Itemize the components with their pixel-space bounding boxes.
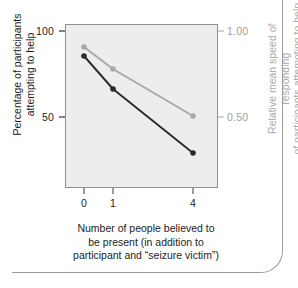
series-gray-line (84, 47, 193, 116)
series-dark-point-0 (81, 53, 87, 59)
x-axis-tick-label-4: 4 (178, 197, 208, 209)
x-axis-title: Number of people believed to be present … (36, 222, 256, 263)
series-gray-point-1 (110, 66, 115, 71)
series-dark-line (84, 56, 193, 153)
y-axis-left-title-line1: Percentage of participants (11, 0, 24, 150)
y-axis-right-title-line1: Relative mean speed of responding (266, 0, 291, 159)
y-axis-left-title: Percentage of participants attempting to… (11, 0, 36, 150)
y-axis-right-tick-label-50: 0.50 (227, 111, 267, 123)
y-axis-right-title: Relative mean speed of responding of par… (266, 0, 298, 159)
x-axis-title-line3: participant and “seizure victim”) (36, 249, 256, 263)
y-axis-right-tick-label-100: 1.00 (227, 25, 267, 37)
series-dark-point-1 (110, 86, 116, 92)
chart-figure: 100 50 1.00 0.50 0 1 4 Percentage of par… (0, 0, 298, 288)
y-axis-left-title-line2: attempting to help (23, 0, 36, 150)
y-axis-right-title-line2: of participants attempting to help (291, 0, 298, 159)
x-axis-tick-label-0: 0 (69, 197, 99, 209)
x-axis-title-line1: Number of people believed to (36, 222, 256, 236)
x-axis-title-line2: be present (in addition to (36, 236, 256, 250)
series-dark-point-2 (190, 150, 196, 156)
dual-axis-line-chart: 100 50 1.00 0.50 0 1 4 Percentage of par… (0, 0, 298, 288)
x-axis-tick-label-1: 1 (98, 197, 128, 209)
series-gray-point-2 (190, 113, 195, 118)
series-gray-point-0 (81, 44, 86, 49)
